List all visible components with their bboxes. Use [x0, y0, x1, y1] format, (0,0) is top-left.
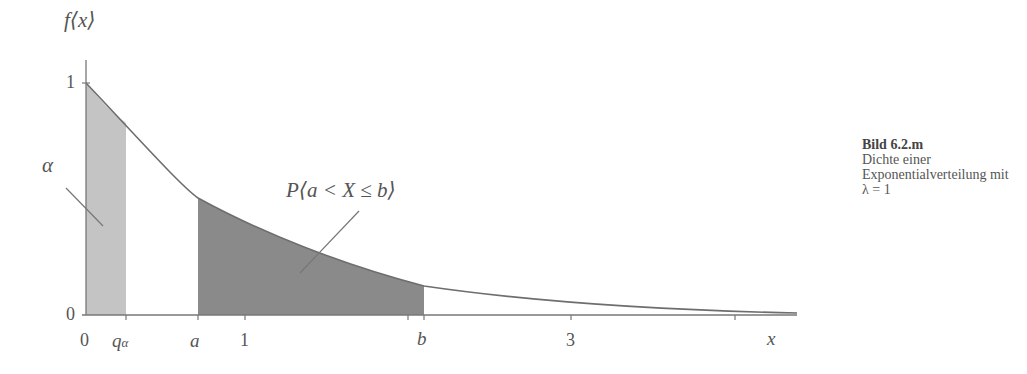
figure-number: Bild 6.2.m: [862, 137, 923, 152]
x-tick-0: 0: [80, 330, 89, 351]
x-tick-1: 1: [240, 330, 249, 351]
y-tick-0: 0: [66, 304, 75, 325]
alpha-region: [86, 83, 126, 315]
x-tick-a: a: [190, 330, 200, 352]
y-axis-label: f⟨x⟩: [64, 8, 96, 33]
y-tick-1: 1: [66, 72, 75, 93]
figure-caption: Bild 6.2.m Dichte einer Exponentialverte…: [862, 137, 1009, 197]
caption-line-3: λ = 1: [862, 182, 891, 197]
caption-line-2: Exponentialverteilung mit: [862, 167, 1009, 182]
x-axis-label: x: [767, 328, 775, 350]
x-tick-3: 3: [566, 330, 575, 351]
density-curve: [86, 83, 797, 313]
caption-line-1: Dichte einer: [862, 152, 931, 167]
x-tick-b: b: [417, 328, 427, 350]
alpha-label: α: [42, 153, 53, 178]
probability-label: P⟨a < X ≤ b⟩: [286, 178, 396, 203]
x-tick-q-alpha: qα: [112, 330, 128, 352]
